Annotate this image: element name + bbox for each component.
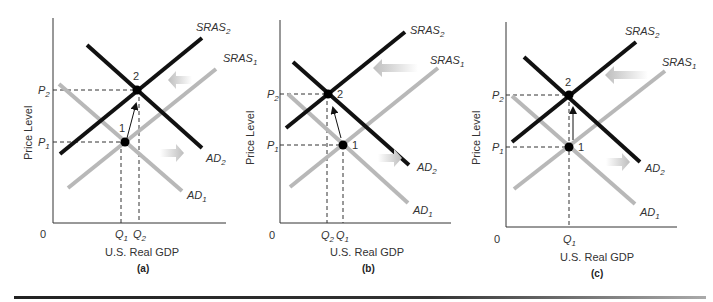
sras-shift-left-arrow	[168, 71, 192, 89]
sras-shift-left-arrow	[373, 59, 418, 77]
q2-label: Q2	[321, 229, 335, 244]
equilibrium-point-1	[339, 141, 348, 150]
sras1-label: SRAS1	[223, 52, 257, 67]
sras2-label: SRAS2	[196, 21, 231, 36]
q1-label: Q1	[563, 233, 576, 248]
y-axis-label: Price Level	[244, 111, 256, 165]
q1-label: Q1	[336, 229, 349, 244]
sras1-label: SRAS1	[662, 56, 696, 71]
ad-shift-right-arrow	[160, 144, 184, 162]
p1-label: P1	[38, 136, 50, 151]
origin-label: 0	[40, 228, 46, 240]
y-axis-label: Price Level	[470, 111, 482, 165]
sras1-label: SRAS1	[430, 54, 464, 69]
point1-label: 1	[119, 122, 125, 134]
x-axis-label: U.S. Real GDP	[560, 251, 634, 263]
ad-shift-right-arrow	[606, 153, 630, 171]
p2-label: P2	[492, 89, 504, 104]
equilibrium-point-1	[565, 143, 574, 152]
p2-label: P2	[38, 84, 50, 99]
equilibrium-point-2	[565, 91, 574, 100]
ad2-label: AD2	[205, 152, 226, 167]
y-axis-label: Price Level	[22, 106, 34, 160]
panel-caption: (b)	[362, 263, 375, 274]
equilibrium-point-2	[133, 86, 142, 95]
ad-shift-right-arrow	[378, 149, 402, 167]
panel-caption: (a)	[137, 263, 149, 274]
aggregate-demand-supply-figure: 1 2 P2 P1 Q1 Q2 0 SRAS2 SRAS1 AD2 AD1 U.…	[0, 0, 713, 302]
ad2-label: AD2	[644, 162, 665, 177]
p1-label: P1	[267, 139, 279, 154]
origin-label: 0	[269, 229, 275, 241]
panel-b: 1 2 P2 P1 Q2 Q1 0 SRAS2 SRAS1 AD2 AD1 U.…	[244, 20, 464, 274]
point2-label: 2	[133, 70, 139, 82]
panel-caption: (c)	[591, 268, 603, 279]
point2-label: 2	[337, 88, 343, 100]
ad2-label: AD2	[416, 161, 437, 176]
point1-label: 1	[352, 139, 358, 151]
sras2-curve	[512, 42, 636, 142]
q2-label: Q2	[133, 228, 147, 243]
sras1-curve	[514, 71, 665, 189]
x-axis-label: U.S. Real GDP	[330, 246, 404, 258]
origin-label: 0	[494, 233, 500, 245]
bottom-rule	[14, 296, 706, 299]
equilibrium-point-1	[121, 138, 130, 147]
panel-c: 1 2 P2 P1 Q1 0 SRAS2 SRAS1 AD2 AD1 U.S. …	[470, 22, 696, 279]
sras2-label: SRAS2	[410, 24, 445, 39]
ad1-label: AD1	[412, 204, 433, 219]
sras-shift-left-arrow	[605, 66, 648, 84]
ad1-label: AD1	[639, 206, 660, 221]
q1-label: Q1	[115, 228, 128, 243]
point1-label: 1	[578, 141, 584, 153]
x-axis-label: U.S. Real GDP	[105, 246, 179, 258]
equilibrium-point-2	[324, 90, 333, 99]
p2-label: P2	[267, 88, 279, 103]
point2-label: 2	[565, 76, 571, 88]
panel-a: 1 2 P2 P1 Q1 Q2 0 SRAS2 SRAS1 AD2 AD1 U.…	[22, 18, 257, 274]
sras2-curve	[286, 32, 405, 128]
ad1-label: AD1	[186, 189, 207, 204]
p1-label: P1	[492, 141, 504, 156]
sras2-label: SRAS2	[625, 25, 660, 40]
